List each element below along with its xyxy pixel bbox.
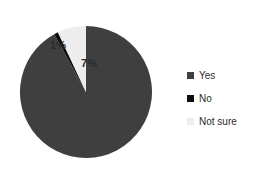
legend-item-yes[interactable]: Yes bbox=[187, 64, 257, 87]
pie-label-not-sure: 7% bbox=[81, 57, 97, 69]
square-marker-icon bbox=[187, 118, 194, 125]
legend-item-no[interactable]: No bbox=[187, 87, 257, 110]
pie-chart: 92% 7% 1% Yes No Not sure bbox=[0, 0, 260, 175]
chart-legend: Yes No Not sure bbox=[187, 64, 257, 133]
legend-item-label: No bbox=[199, 93, 212, 104]
legend-item-label: Yes bbox=[199, 70, 215, 81]
legend-item-label: Not sure bbox=[199, 116, 237, 127]
pie-graphic: 92% 7% 1% bbox=[20, 26, 152, 158]
pie-label-yes: 92% bbox=[106, 154, 129, 166]
legend-item-not-sure[interactable]: Not sure bbox=[187, 110, 257, 133]
square-marker-icon bbox=[187, 95, 194, 102]
pie-slices bbox=[20, 26, 152, 158]
pie-svg bbox=[20, 26, 152, 158]
square-marker-icon bbox=[187, 72, 194, 79]
pie-label-no: 1% bbox=[50, 39, 66, 51]
